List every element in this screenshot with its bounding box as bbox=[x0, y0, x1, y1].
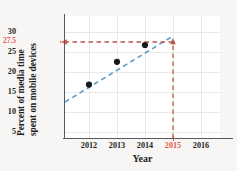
y-axis-title-line-1: Percent of media time bbox=[16, 49, 26, 136]
y-axis-line bbox=[64, 14, 65, 139]
x-tick-label-2016: 2016 bbox=[181, 141, 221, 150]
y-tick-label-15: 15 bbox=[0, 87, 16, 96]
y-tick-label-5: 5 bbox=[0, 127, 16, 136]
prediction-arrow-up bbox=[170, 38, 176, 44]
x-axis-line bbox=[63, 138, 233, 139]
chart-graphics bbox=[65, 16, 220, 138]
prediction-value-label: 27.5 bbox=[0, 36, 16, 45]
data-point bbox=[86, 82, 92, 88]
plot-area bbox=[65, 16, 220, 138]
y-axis-title-line-2: spent on mobile devices bbox=[28, 43, 38, 136]
x-axis-title: Year bbox=[65, 153, 220, 164]
chart-figure: Percent of media time spent on mobile de… bbox=[0, 0, 237, 171]
y-tick-label-10: 10 bbox=[0, 107, 16, 116]
data-point bbox=[142, 42, 148, 48]
data-point bbox=[114, 59, 120, 65]
y-tick-label-30: 30 bbox=[0, 27, 16, 36]
trend-line bbox=[65, 36, 173, 102]
y-tick-label-20: 20 bbox=[0, 67, 16, 76]
y-tick-label-25: 25 bbox=[0, 47, 16, 56]
